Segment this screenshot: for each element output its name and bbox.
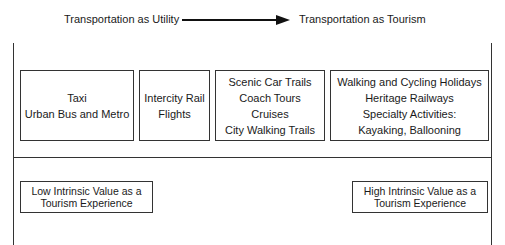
left-frame-line (13, 43, 14, 245)
divider-line (13, 157, 492, 158)
category-box-scenic: Scenic Car Trails Coach Tours Cruises Ci… (215, 70, 325, 141)
category-box-specialty: Walking and Cycling Holidays Heritage Ra… (330, 70, 489, 141)
category-line: Taxi (67, 90, 87, 106)
category-line: Flights (158, 106, 190, 122)
low-value-line: Tourism Experience (40, 197, 132, 209)
low-value-line: Low Intrinsic Value as a (31, 185, 141, 197)
utility-label: Transportation as Utility (64, 13, 179, 25)
category-line: Intercity Rail (144, 90, 205, 106)
right-arrow-icon (180, 14, 292, 26)
category-box-intercity: Intercity Rail Flights (139, 70, 210, 141)
category-line: Cruises (251, 106, 288, 122)
category-line: City Walking Trails (225, 122, 315, 138)
category-line: Kayaking, Ballooning (358, 122, 461, 138)
category-line: Specialty Activities: (363, 106, 457, 122)
category-line: Walking and Cycling Holidays (337, 74, 482, 90)
category-line: Coach Tours (239, 90, 301, 106)
category-line: Scenic Car Trails (228, 74, 311, 90)
high-value-box: High Intrinsic Value as a Tourism Experi… (352, 181, 488, 213)
high-value-line: High Intrinsic Value as a (364, 185, 476, 197)
category-line: Heritage Railways (365, 90, 454, 106)
tourism-label: Transportation as Tourism (299, 13, 426, 25)
high-value-line: Tourism Experience (374, 197, 466, 209)
right-frame-line (491, 43, 492, 245)
category-box-urban: Taxi Urban Bus and Metro (20, 70, 134, 141)
low-value-box: Low Intrinsic Value as a Tourism Experie… (20, 181, 153, 213)
category-line: Urban Bus and Metro (25, 106, 130, 122)
